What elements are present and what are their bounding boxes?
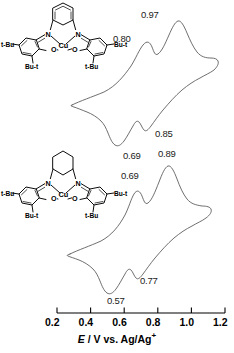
xtick-label-1.2: 1.2 xyxy=(213,316,228,328)
xtick-label-0.6: 0.6 xyxy=(112,316,127,328)
xtick-label-0.4: 0.4 xyxy=(79,316,94,328)
upper-structure-oxygen-left: O xyxy=(51,45,58,54)
upper-structure-tbu-bottom-left: Bu-t xyxy=(25,63,38,70)
peak-label-lower-cathodic-077: 0.77 xyxy=(140,275,158,286)
upper-structure-nitrogen-left: N xyxy=(45,30,51,39)
x-axis-title: E / V vs. Ag/Ag+ xyxy=(0,331,234,345)
lower-structure-nitrogen-right: N xyxy=(75,179,81,188)
axis-title-rest: / V vs. Ag/Ag xyxy=(85,333,152,345)
peak-label-upper-anodic-097: 0.97 xyxy=(141,9,159,20)
cv-figure: N N Cu O O t-Bu Bu-t Bu-t t-Bu N N Cu O … xyxy=(0,0,234,353)
lower-structure-tbu-bottom-right: t-Bu xyxy=(85,212,98,219)
upper-structure-tbu-left: t-Bu xyxy=(1,41,14,48)
peak-label-lower-cathodic-057: 0.57 xyxy=(107,295,125,306)
x-axis xyxy=(57,308,225,314)
lower-structure-nitrogen-left: N xyxy=(45,179,51,188)
lower-structure-tbu-left: t-Bu xyxy=(1,190,14,197)
axis-title-superscript: + xyxy=(152,331,157,340)
upper-molecular-structure xyxy=(12,3,114,63)
upper-structure-oxygen-right: O xyxy=(72,45,79,54)
peak-label-upper-cathodic-085: 0.85 xyxy=(155,128,173,139)
xtick-label-0.2: 0.2 xyxy=(45,316,60,328)
upper-structure-metal-cu: Cu xyxy=(59,41,69,50)
peak-label-upper-cathodic-069: 0.69 xyxy=(123,150,141,161)
peak-label-lower-anodic-069: 0.69 xyxy=(121,170,139,181)
xtick-label-0.8: 0.8 xyxy=(146,316,161,328)
lower-structure-oxygen-left: O xyxy=(51,194,58,203)
lower-structure-oxygen-right: O xyxy=(72,194,79,203)
axis-title-symbol: E xyxy=(78,333,85,345)
upper-structure-nitrogen-right: N xyxy=(75,30,81,39)
peak-label-lower-anodic-089: 0.89 xyxy=(158,148,176,159)
lower-structure-metal-cu: Cu xyxy=(59,190,69,199)
lower-molecular-structure xyxy=(12,151,114,212)
peak-label-upper-anodic-080: 0.80 xyxy=(113,33,131,44)
xtick-label-1.0: 1.0 xyxy=(179,316,194,328)
lower-structure-tbu-bottom-left: Bu-t xyxy=(25,212,38,219)
lower-structure-tbu-right: Bu-t xyxy=(114,190,127,197)
upper-structure-tbu-bottom-right: t-Bu xyxy=(85,63,98,70)
